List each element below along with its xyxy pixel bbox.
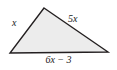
triangle-polygon bbox=[10, 8, 108, 53]
side-label-right: 5x bbox=[68, 14, 77, 24]
side-label-left: x bbox=[12, 18, 16, 28]
geometry-figure: x 5x 6x − 3 bbox=[0, 0, 117, 70]
side-label-bottom: 6x − 3 bbox=[0, 55, 117, 65]
